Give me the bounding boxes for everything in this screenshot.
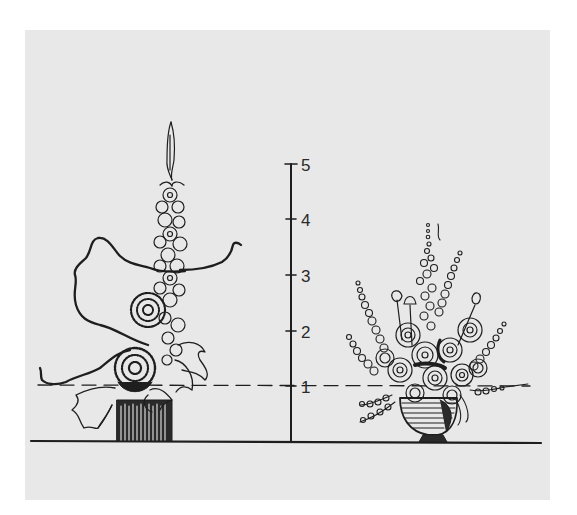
rose-mass [376,318,487,404]
curly-branches [40,238,241,384]
footed-bowl [400,398,457,442]
tick-label-3: 3 [301,267,310,286]
allium-lower [115,348,155,392]
tick-label-5: 5 [301,156,310,175]
illustration: 5 4 3 2 1 [0,0,577,515]
tick-label-2: 2 [301,323,310,342]
flower-spike [154,122,187,365]
ground-line [31,441,541,443]
reference-dashed-line [38,385,530,386]
allium-upper [131,293,165,327]
height-scale: 5 4 3 2 1 [285,156,310,442]
vertical-line-arrangement [40,122,241,441]
mass-arrangement [347,224,529,443]
tick-label-1: 1 [301,378,310,397]
tick-label-4: 4 [301,211,310,230]
